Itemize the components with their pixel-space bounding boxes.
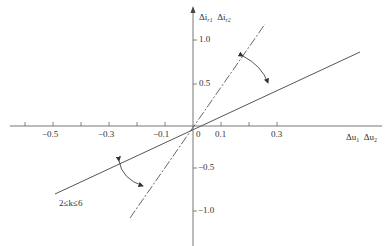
y-sub-2: r2: [225, 17, 230, 23]
y-tick-label: −1.0: [198, 206, 214, 215]
k-range-annotation: 2≤k≤6: [59, 199, 82, 208]
y-tick-label: −0.5: [198, 163, 214, 172]
dashdot-characteristic-line: [130, 24, 265, 218]
x-ticks: [25, 122, 277, 126]
x-label-1: Δu: [346, 132, 356, 142]
y-tick-label: 1.0: [199, 35, 210, 44]
upper-angle-arc-arrow-icon: [243, 56, 268, 83]
y-axis-label: Δir1 Δir2: [199, 13, 231, 23]
x-tick-label: 0.3: [271, 130, 282, 139]
solid-characteristic-line: [55, 52, 360, 194]
x-axis-label: Δu1 Δu2: [346, 133, 377, 143]
y-tick-label: 0.5: [199, 79, 210, 88]
characteristic-diagram: [0, 0, 391, 246]
x-tick-label: −0.1: [153, 130, 169, 139]
lower-angle-arc-arrow-icon: [119, 161, 143, 186]
x-tick-label: 0: [196, 130, 201, 139]
x-sub-1: 1: [356, 137, 359, 143]
x-label-2: Δu: [364, 132, 374, 142]
x-sub-2: 2: [374, 137, 377, 143]
x-tick-label: −0.3: [98, 130, 114, 139]
y-sub-1: r1: [207, 17, 212, 23]
x-tick-label: −0.5: [42, 130, 58, 139]
y-axis-arrow-icon: [191, 6, 196, 13]
x-tick-label: 0.1: [215, 130, 226, 139]
y-ticks: [193, 40, 197, 211]
